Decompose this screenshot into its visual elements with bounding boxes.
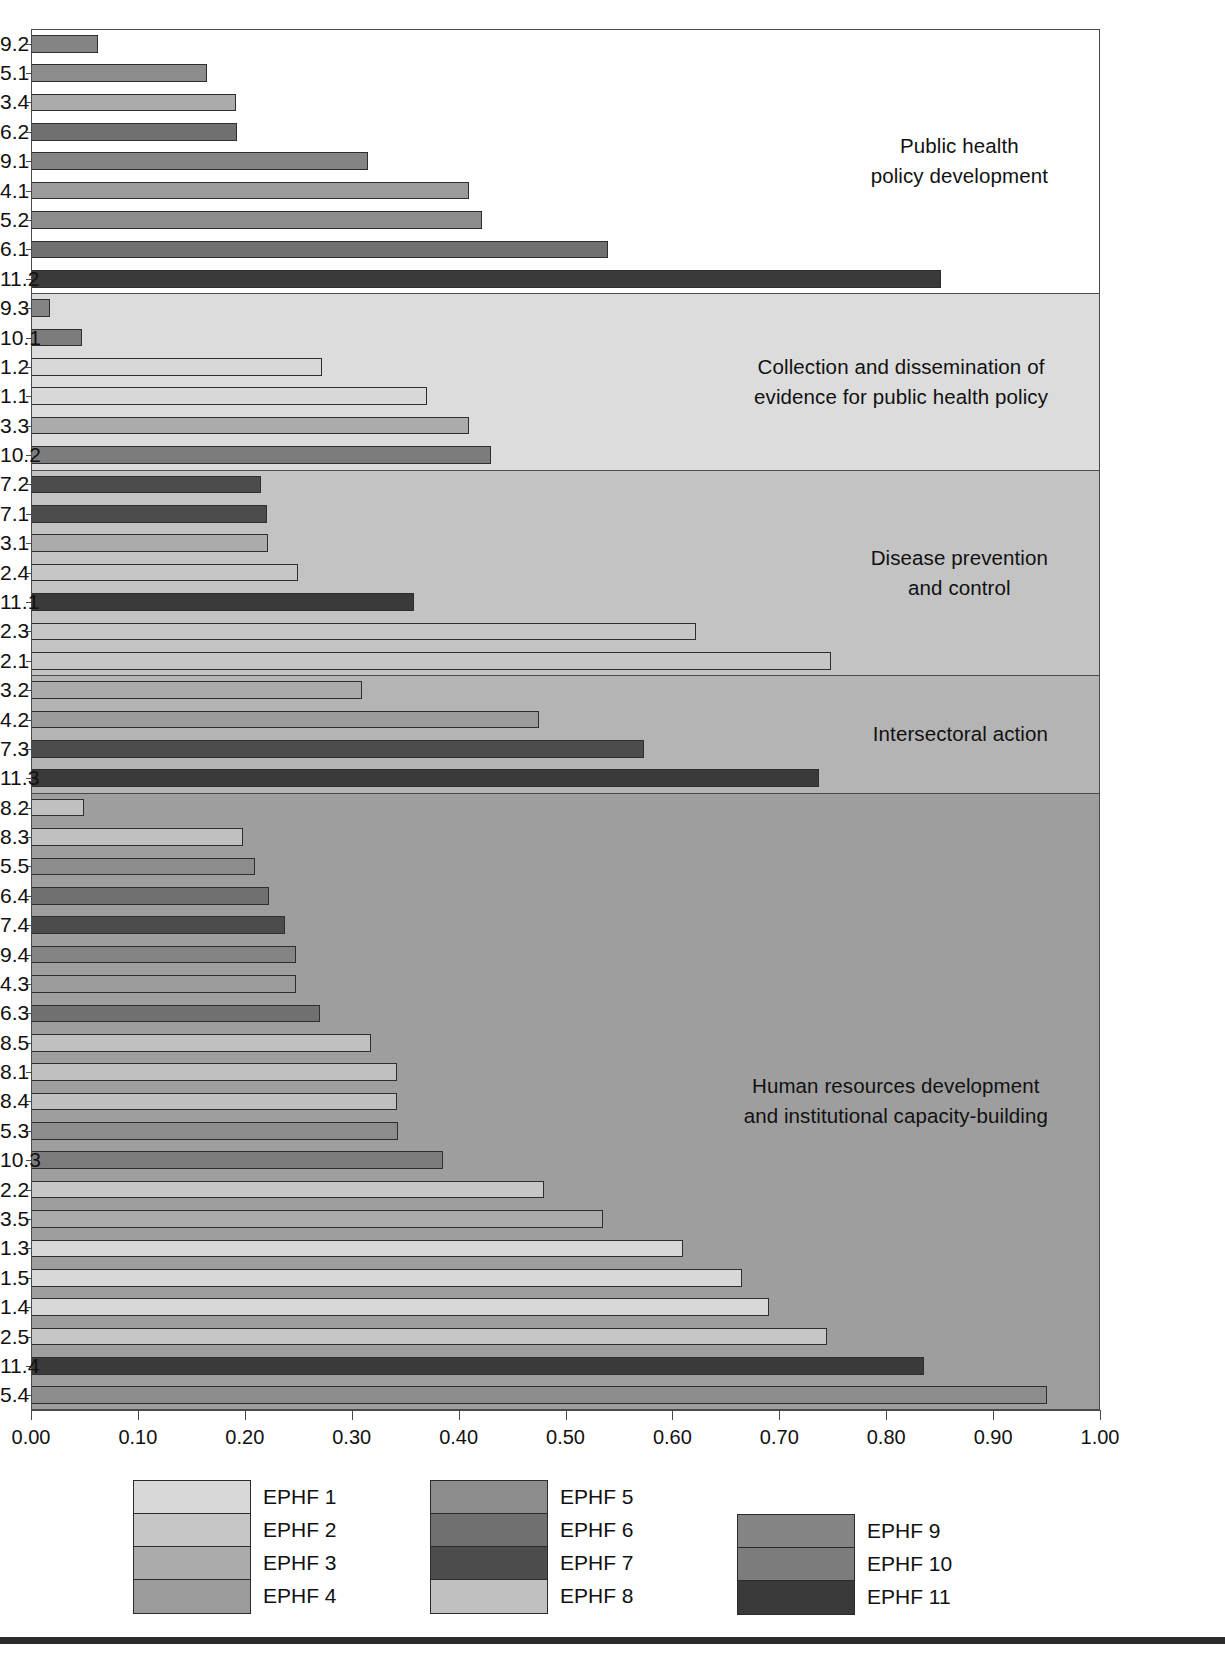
y-axis-category-label: 10.2 [0,444,25,465]
y-axis-category-label: 2.1 [0,650,25,671]
y-axis-category-label: 1.4 [0,1296,25,1317]
legend-label: EPHF 2 [263,1513,337,1546]
x-axis-tick [138,1410,139,1420]
y-axis-category-label: 2.5 [0,1326,25,1347]
y-axis-category-label: 9.2 [0,33,25,54]
x-axis-tick-label: 0.30 [332,1426,371,1448]
x-axis-tick [779,1410,780,1420]
y-axis-category-label: 11.1 [0,591,25,612]
legend-label: EPHF 8 [560,1579,634,1612]
y-axis-category-label: 4.3 [0,973,25,994]
x-axis-tick [566,1410,567,1420]
y-axis-category-label: 2.2 [0,1179,25,1200]
y-axis-category-label: 7.4 [0,914,25,935]
y-axis-category-label: 1.1 [0,385,25,406]
legend-label: EPHF 9 [867,1514,952,1547]
y-axis-category-label: 6.3 [0,1002,25,1023]
legend-swatch [134,1580,250,1613]
y-axis-category-label: 11.4 [0,1355,25,1376]
y-axis-category-label: 1.5 [0,1267,25,1288]
y-axis-category-label: 4.1 [0,180,25,201]
legend-label-group: EPHF 9EPHF 10EPHF 11 [867,1514,952,1613]
y-axis-category-label: 9.3 [0,297,25,318]
chart-legend: EPHF 1EPHF 2EPHF 3EPHF 4EPHF 5EPHF 6EPHF… [0,1472,1225,1612]
y-axis-category-label: 6.1 [0,238,25,259]
y-axis-category-label: 3.5 [0,1208,25,1229]
y-axis-category-label: 3.1 [0,532,25,553]
y-axis-category-label: 3.2 [0,679,25,700]
y-axis-category-label: 11.2 [0,268,25,289]
legend-label: EPHF 10 [867,1547,952,1580]
legend-swatch [431,1514,547,1547]
y-axis-category-label: 2.3 [0,620,25,641]
y-axis-category-label: 9.4 [0,944,25,965]
x-axis-tick-label: 0.10 [118,1426,157,1448]
legend-swatch [134,1547,250,1580]
y-axis-category-label: 4.2 [0,709,25,730]
x-axis-tick [352,1410,353,1420]
legend-swatch [134,1514,250,1547]
y-axis-category-label: 7.3 [0,738,25,759]
y-axis-category-label: 3.3 [0,415,25,436]
legend-swatch-group [133,1480,251,1614]
y-axis-category-label: 2.4 [0,562,25,583]
x-axis-tick-label: 0.70 [760,1426,799,1448]
y-axis-category-label: 5.1 [0,62,25,83]
y-axis-category-label: 8.3 [0,826,25,847]
y-axis-category-label: 5.4 [0,1384,25,1405]
y-axis-category-label: 10.1 [0,327,25,348]
legend-swatch [134,1481,250,1514]
y-axis-category-label: 8.4 [0,1090,25,1111]
legend-swatch [431,1547,547,1580]
y-axis-category-label: 10.3 [0,1149,25,1170]
legend-swatch [738,1548,854,1581]
legend-label: EPHF 1 [263,1480,337,1513]
y-axis-category-label: 1.3 [0,1237,25,1258]
y-axis-category-label: 5.2 [0,209,25,230]
legend-swatch-group [430,1480,548,1614]
y-axis-category-label: 6.2 [0,121,25,142]
legend-swatch [431,1481,547,1514]
x-axis-tick-label: 0.80 [867,1426,906,1448]
plot-area: Public health policy developmentCollecti… [31,29,1100,1410]
x-axis-tick [886,1410,887,1420]
x-axis-tick-label: 1.00 [1081,1426,1120,1448]
x-axis-tick [993,1410,994,1420]
legend-label: EPHF 6 [560,1513,634,1546]
x-axis-tick [31,1410,32,1420]
y-axis-category-label: 7.2 [0,473,25,494]
legend-swatch-group [737,1514,855,1615]
x-axis-tick-label: 0.50 [546,1426,585,1448]
legend-label: EPHF 5 [560,1480,634,1513]
y-axis-category-label: 8.5 [0,1032,25,1053]
y-axis-category-label: 11.3 [0,767,25,788]
legend-label-group: EPHF 5EPHF 6EPHF 7EPHF 8 [560,1480,634,1612]
legend-swatch [738,1581,854,1614]
legend-label-group: EPHF 1EPHF 2EPHF 3EPHF 4 [263,1480,337,1612]
x-axis-tick-label: 0.20 [225,1426,264,1448]
ephf-priority-bar-chart: Public health policy developmentCollecti… [0,0,1225,1657]
legend-swatch [738,1515,854,1548]
legend-label: EPHF 11 [867,1580,952,1613]
legend-label: EPHF 4 [263,1579,337,1612]
footer-rule [0,1637,1225,1644]
legend-label: EPHF 3 [263,1546,337,1579]
y-axis-category-label: 9.1 [0,150,25,171]
y-axis-category-label: 8.1 [0,1061,25,1082]
x-axis-tick [459,1410,460,1420]
y-axis-category-label: 1.2 [0,356,25,377]
x-axis-tick-label: 0.90 [974,1426,1013,1448]
y-axis-category-label: 3.4 [0,91,25,112]
x-axis-tick [1100,1410,1101,1420]
legend-swatch [431,1580,547,1613]
y-axis-category-label: 5.3 [0,1120,25,1141]
y-axis-category-label: 7.1 [0,503,25,524]
plot-border [31,29,1100,1410]
x-axis-tick-label: 0.40 [439,1426,478,1448]
y-axis-category-label: 8.2 [0,797,25,818]
x-axis-tick-label: 0.60 [653,1426,692,1448]
x-axis-tick-label: 0.00 [12,1426,51,1448]
x-axis-tick [672,1410,673,1420]
x-axis-tick [245,1410,246,1420]
y-axis-category-label: 5.5 [0,855,25,876]
